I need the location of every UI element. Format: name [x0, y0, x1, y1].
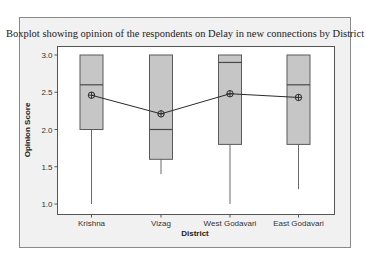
mean-marker-icon [158, 111, 164, 117]
mean-marker-icon [88, 92, 94, 98]
chart-canvas: Boxplot showing opinion of the responden… [0, 0, 366, 262]
chart-title: Boxplot showing opinion of the responden… [6, 28, 364, 39]
boxplot-chart: Boxplot showing opinion of the responden… [0, 0, 366, 262]
y-tick-label: 1.5 [41, 163, 53, 172]
iqr-box [219, 55, 242, 144]
y-tick-label: 3.0 [41, 51, 53, 60]
x-tick-label: Krishna [78, 219, 106, 228]
iqr-box [150, 55, 173, 159]
x-axis-label: District [181, 229, 209, 238]
y-tick-label: 2.0 [41, 126, 53, 135]
y-tick-label: 2.5 [41, 88, 53, 97]
x-tick-label: Vizag [151, 219, 171, 228]
y-tick-label: 1.0 [41, 200, 53, 209]
mean-marker-icon [295, 94, 301, 100]
mean-marker-icon [227, 91, 233, 97]
x-tick-label: East Godavari [273, 219, 324, 228]
y-axis-label: Opinion Score [23, 102, 32, 157]
x-tick-label: West Godavari [204, 219, 257, 228]
